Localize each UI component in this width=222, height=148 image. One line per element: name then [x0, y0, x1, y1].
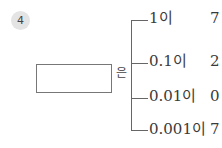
- problem-number-badge: 4: [11, 11, 30, 30]
- digit-value: 7: [210, 121, 220, 137]
- place-value-label: 0.01이: [149, 88, 196, 104]
- digit-value: 0: [210, 88, 220, 104]
- digit-value: 2: [210, 53, 220, 69]
- place-value-label: 0.001이: [149, 121, 206, 137]
- place-value-label: 0.1이: [149, 53, 187, 69]
- place-value-label: 1이: [149, 10, 173, 26]
- digit-value: 7: [210, 10, 220, 26]
- bracket-branch-line: [131, 63, 148, 64]
- bracket-branch-line: [131, 130, 148, 131]
- bracket-branch-line: [131, 20, 148, 21]
- bracket-trunk-line: [131, 20, 132, 131]
- bracket-branch-line: [131, 98, 148, 99]
- answer-input-box[interactable]: [36, 64, 112, 93]
- topic-particle: 은: [114, 66, 126, 78]
